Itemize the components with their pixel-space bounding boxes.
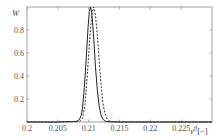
x-tick-label: 0.205 [49, 124, 67, 133]
peak-distribution-chart: 0.20.2050.210.2150.220.225 0.20.40.60.8 … [0, 0, 224, 140]
series-line-dashed [27, 7, 212, 122]
y-tick-label: 0.4 [14, 72, 24, 81]
y-tick-label: 0.8 [14, 26, 24, 35]
x-tick-label: 0.215 [111, 124, 129, 133]
data-series [27, 7, 212, 122]
y-axis-ticks: 0.20.40.60.8 [14, 26, 212, 104]
x-axis-title-unit: [−] [197, 126, 208, 136]
y-tick-label: 0.2 [14, 95, 24, 104]
x-tick-label: 0.2 [22, 124, 32, 133]
plot-border [27, 7, 212, 122]
x-tick-label: 0.22 [143, 124, 157, 133]
x-tick-label: 0.21 [82, 124, 96, 133]
plot-frame [27, 7, 212, 122]
y-axis-title: W [12, 8, 20, 18]
y-tick-label: 0.6 [14, 49, 24, 58]
series-line-solid [27, 7, 212, 122]
x-axis-title: νff[−] [190, 125, 208, 136]
x-axis-ticks: 0.20.2050.210.2150.220.225 [22, 7, 190, 133]
x-tick-label: 0.225 [172, 124, 190, 133]
